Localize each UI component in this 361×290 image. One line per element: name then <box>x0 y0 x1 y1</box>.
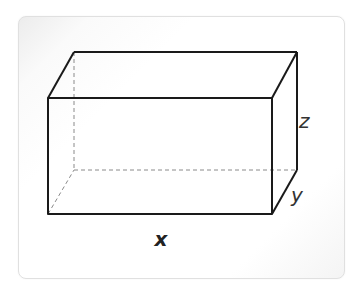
hidden-edges <box>48 52 297 214</box>
top-right-depth-edge <box>272 52 297 98</box>
visible-edges <box>48 52 297 214</box>
label-x: x <box>154 227 169 251</box>
hidden-bottom-left-depth-edge <box>48 170 74 214</box>
prism-diagram: x z y <box>0 0 361 290</box>
front-face <box>48 98 272 214</box>
top-left-depth-edge <box>48 52 74 98</box>
label-y: y <box>290 183 304 207</box>
label-z: z <box>298 109 310 133</box>
